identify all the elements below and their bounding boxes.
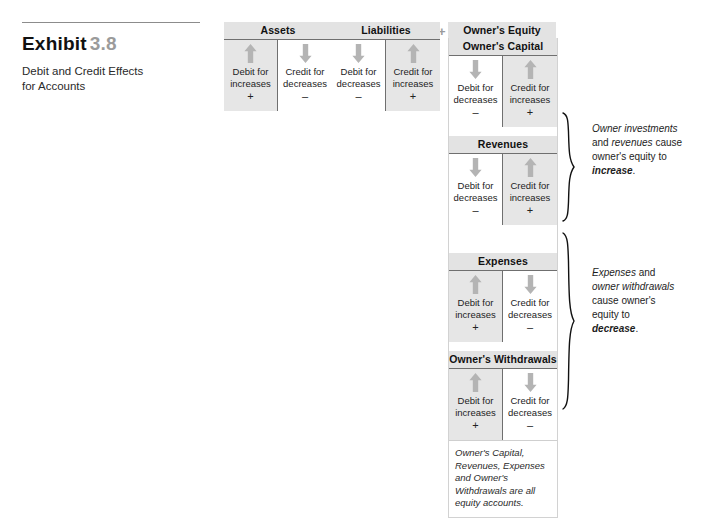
account-liabilities-title: Liabilities [332,22,440,39]
up-arrow-icon [244,44,257,63]
owners-equity-title-band: Owner's Equity [448,22,556,39]
account-owners-withdrawals-t: Debit for increases + Credit for decreas… [449,368,557,440]
down-arrow-icon [469,158,482,177]
annotation-increase-seg3: revenues [611,137,652,148]
account-owners-capital-debit-cell: Debit for decreases – [449,55,503,127]
account-revenues-debit-cell: Debit for decreases – [449,153,503,225]
account-expenses-t: Debit for increases + Credit for decreas… [449,270,557,342]
owners-equity-group: Owner's Capital Debit for decreases – Cr… [448,38,558,518]
account-owners-withdrawals-title: Owner's Withdrawals [449,351,557,368]
account-assets-credit-sign: – [302,90,308,102]
down-arrow-icon [352,44,365,63]
account-revenues-credit-cell: Credit for increases + [503,153,557,225]
annotation-increase-seg2: and [592,137,611,148]
title-block: Exhibit3.8 Debit and Credit Effects for … [22,22,202,94]
account-liabilities: Liabilities Debit for decreases – Credit… [332,22,440,111]
annotation-increase-period: . [633,165,636,176]
account-assets-debit-sign: + [247,90,253,102]
up-arrow-icon [524,60,537,79]
account-owners-capital: Owner's Capital Debit for decreases – Cr… [449,38,557,127]
account-revenues-credit-sign: + [527,204,533,216]
account-liabilities-credit-cell: Credit for increases + [386,39,440,111]
account-revenues-debit-sign: – [472,204,478,216]
down-arrow-icon [469,60,482,79]
account-revenues-credit-line2: increases [510,192,551,204]
up-arrow-icon [524,158,537,177]
account-assets: Assets Debit for increases + Credit for … [224,22,332,111]
annotation-decrease: Expenses and owner withdrawals cause own… [592,266,707,336]
account-liabilities-credit-line1: Credit for [393,66,432,78]
account-assets-debit-line1: Debit for [233,66,269,78]
account-owners-withdrawals-credit-line2: decreases [508,407,552,419]
account-owners-withdrawals-debit-line2: increases [455,407,496,419]
annotation-increase-seg5: owner's equity to [592,151,667,162]
annotation-decrease-seg4: cause owner's [592,295,656,306]
account-revenues-credit-line1: Credit for [510,180,549,192]
account-owners-capital-title: Owner's Capital [449,38,557,55]
account-liabilities-debit-sign: – [355,90,361,102]
account-owners-capital-t: Debit for decreases – Credit for increas… [449,55,557,127]
account-expenses-credit-line1: Credit for [510,297,549,309]
account-assets-credit-line1: Credit for [285,66,324,78]
exhibit-subtitle-line2: for Accounts [22,79,202,94]
annotation-increase: Owner investments and revenues cause own… [592,122,707,178]
account-owners-withdrawals-debit-line1: Debit for [458,395,494,407]
account-expenses: Expenses Debit for increases + Credit fo… [449,253,557,342]
account-owners-withdrawals-credit-cell: Credit for decreases – [503,368,557,440]
account-revenues-debit-line2: decreases [454,192,498,204]
exhibit-heading: Exhibit3.8 [22,33,202,55]
account-liabilities-credit-sign: + [410,90,416,102]
account-expenses-debit-line2: increases [455,309,496,321]
exhibit-subtitle: Debit and Credit Effects for Accounts [22,64,202,94]
account-assets-debit-line2: increases [230,78,271,90]
annotation-decrease-seg2: and [636,267,655,278]
exhibit-label: Exhibit [22,33,87,54]
account-owners-capital-credit-cell: Credit for increases + [503,55,557,127]
annotation-decrease-emphasis: decrease [592,323,635,334]
account-owners-capital-credit-line2: increases [510,94,551,106]
brace-increase [560,112,582,222]
up-arrow-icon [407,44,420,63]
up-arrow-icon [469,275,482,294]
account-expenses-debit-sign: + [472,321,478,333]
down-arrow-icon [524,373,537,392]
annotation-increase-emphasis: increase [592,165,633,176]
account-liabilities-debit-line1: Debit for [341,66,377,78]
account-owners-capital-credit-line1: Credit for [510,82,549,94]
down-arrow-icon [524,275,537,294]
account-owners-capital-debit-line2: decreases [454,94,498,106]
account-owners-withdrawals-debit-cell: Debit for increases + [449,368,503,440]
account-assets-credit-line2: decreases [283,78,327,90]
account-revenues: Revenues Debit for decreases – Credit fo… [449,136,557,225]
account-owners-capital-debit-sign: – [472,106,478,118]
exhibit-subtitle-line1: Debit and Credit Effects [22,64,202,79]
account-expenses-title: Expenses [449,253,557,270]
account-assets-t: Debit for increases + Credit for decreas… [224,39,332,111]
annotation-decrease-seg5: equity to [592,309,630,320]
owners-equity-title: Owner's Equity [448,22,556,39]
annotation-decrease-seg3: owner withdrawals [592,281,674,292]
annotation-increase-seg1: Owner investments [592,123,678,134]
annotation-decrease-period: . [635,323,638,334]
brace-decrease [560,232,582,410]
account-liabilities-debit-cell: Debit for decreases – [332,39,386,111]
annotation-decrease-seg1: Expenses [592,267,636,278]
account-owners-capital-credit-sign: + [527,106,533,118]
title-divider [22,22,200,23]
account-owners-withdrawals-credit-sign: – [527,419,533,431]
account-liabilities-debit-line2: decreases [337,78,381,90]
account-liabilities-t: Debit for decreases – Credit for increas… [332,39,440,111]
account-assets-title: Assets [224,22,332,39]
account-owners-withdrawals-credit-line1: Credit for [510,395,549,407]
annotation-increase-seg4: cause [653,137,682,148]
account-revenues-t: Debit for decreases – Credit for increas… [449,153,557,225]
account-owners-withdrawals-debit-sign: + [472,419,478,431]
account-expenses-debit-cell: Debit for increases + [449,270,503,342]
down-arrow-icon [299,44,312,63]
exhibit-number: 3.8 [90,33,117,54]
account-revenues-debit-line1: Debit for [458,180,494,192]
account-expenses-credit-line2: decreases [508,309,552,321]
account-assets-debit-cell: Debit for increases + [224,39,278,111]
account-liabilities-credit-line2: increases [393,78,434,90]
